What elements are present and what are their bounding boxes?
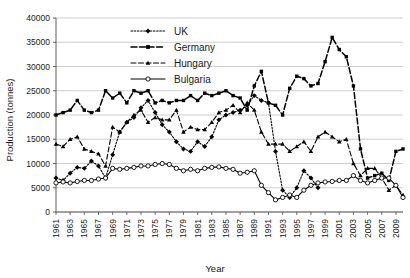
y-axis-title: Production (tonnes) [4,79,15,162]
x-axis-title: Year [205,263,224,274]
y-tick-label: 40000 [26,13,50,23]
data-point [90,111,93,114]
data-point [125,101,128,104]
data-point [61,180,65,184]
data-point [344,178,348,182]
data-point [217,165,221,169]
data-point [373,178,377,182]
x-tick-label: 2009 [391,219,401,238]
x-tick-label: 1995 [292,219,302,238]
data-point [274,104,277,107]
data-point [161,99,164,102]
data-point [260,70,263,73]
legend-label: Hungary [174,58,212,69]
data-point [280,195,284,199]
data-point [83,108,86,111]
data-point [96,177,100,181]
x-tick-label: 1973 [136,219,146,238]
y-tick-label: 25000 [26,86,50,96]
y-tick-label: 30000 [26,62,50,72]
x-tick-label: 1977 [164,219,174,238]
data-point [132,89,135,92]
production-line-chart: 0500010000150002000025000300003500040000… [0,0,410,278]
y-tick-label: 15000 [26,134,50,144]
data-point [224,166,228,170]
data-point [380,176,384,180]
x-tick-label: 2001 [334,219,344,238]
y-tick-label: 10000 [26,159,50,169]
x-tick-label: 1989 [249,219,259,238]
data-point [323,60,326,63]
data-point [266,190,270,194]
data-point [97,108,100,111]
data-point [203,91,206,94]
legend-label: UK [174,26,188,37]
data-point [366,176,369,179]
data-point [75,179,79,183]
x-tick-label: 1969 [108,219,118,238]
x-tick-label: 1997 [306,219,316,238]
x-tick-label: 2005 [363,219,373,238]
data-point [175,99,178,102]
data-point [288,193,292,197]
data-point [401,195,405,199]
data-point [125,166,129,170]
data-point [89,178,93,182]
data-point [118,91,121,94]
y-tick-label: 5000 [31,183,50,193]
data-point [54,181,58,185]
y-tick-label: 0 [45,207,50,217]
data-point [323,180,327,184]
data-point [246,108,249,111]
data-point [302,188,306,192]
data-point [153,101,156,104]
data-point [139,91,142,94]
x-tick-label: 1967 [93,219,103,238]
x-tick-label: 1963 [65,219,75,238]
data-point [181,169,185,173]
data-point [338,48,341,51]
x-tick-label: 2003 [348,219,358,238]
data-point [351,174,355,178]
data-point [160,161,164,165]
data-point [217,91,220,94]
data-point [132,165,136,169]
data-point [295,75,298,78]
x-tick-label: 1987 [235,219,245,238]
data-point [146,164,150,168]
y-tick-label: 35000 [26,37,50,47]
data-point [337,178,341,182]
data-point [174,166,178,170]
x-tick-label: 1975 [150,219,160,238]
x-tick-label: 1961 [51,219,61,238]
data-point [231,94,234,97]
data-point [359,147,362,150]
chart-container: 0500010000150002000025000300003500040000… [0,0,410,278]
x-tick-label: 1993 [278,219,288,238]
data-point [295,195,299,199]
legend-marker-square-icon [146,45,150,49]
data-point [352,84,355,87]
data-point [104,89,107,92]
x-tick-label: 1979 [178,219,188,238]
data-point [210,165,214,169]
legend-marker-circle-open-icon [146,77,150,81]
data-point [365,181,369,185]
data-point [76,99,79,102]
data-point [281,113,284,116]
data-point [380,172,383,175]
data-point [153,162,157,166]
data-point [54,113,57,116]
data-point [224,89,227,92]
data-point [68,108,71,111]
data-point [203,166,207,170]
data-point [188,167,192,171]
x-tick-label: 1971 [122,219,132,238]
x-tick-label: 1991 [263,219,273,238]
data-point [309,84,312,87]
data-point [146,89,149,92]
data-point [288,87,291,90]
data-point [196,99,199,102]
data-point [273,198,277,202]
data-point [118,167,122,171]
